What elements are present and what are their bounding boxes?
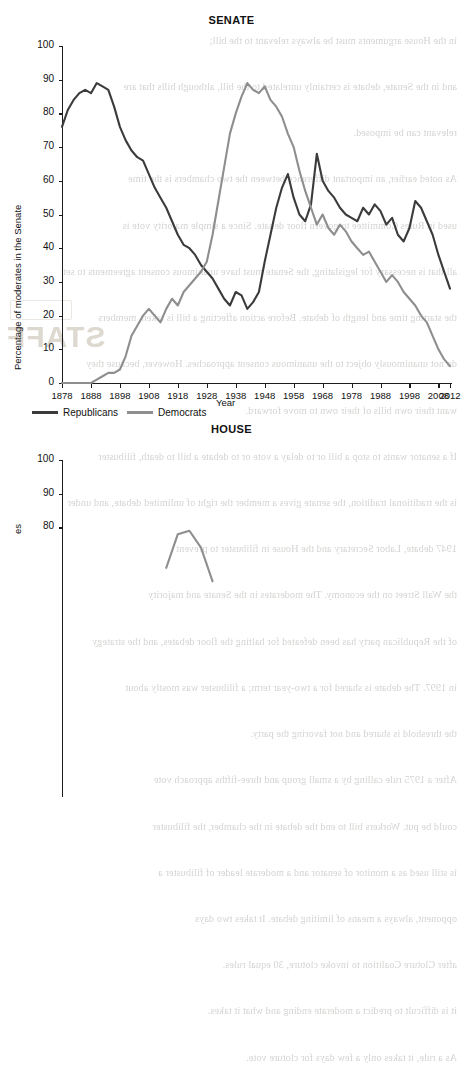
- bleed-line: is still used as a monitor of senator an…: [6, 865, 457, 880]
- bleed-line: After a 1975 rule calling by a small gro…: [6, 772, 457, 787]
- bleed-line: of the Republican party has been defeate…: [6, 634, 457, 649]
- bleed-line: it is difficult to predict a moderate en…: [6, 1003, 457, 1018]
- bleed-line: after Cloture Coalition to invoke clotur…: [6, 957, 457, 972]
- bleed-line: As a rule, it takes only a few days for …: [6, 1050, 457, 1065]
- bleed-line: the Wall Street on the economy. The mode…: [6, 587, 457, 602]
- series-line-democrats: [166, 531, 212, 582]
- bleed-line: opponent, always a means of limiting deb…: [6, 911, 457, 926]
- bleed-line: could be put. Workers bill to end the de…: [6, 819, 457, 834]
- bleed-line: in 1997. The debate is shared for a two-…: [6, 680, 457, 695]
- bleed-line: 1947 debate, Labor Secretary and the Hou…: [6, 541, 457, 556]
- bleed-line: the threshold is shared and not favoring…: [6, 726, 457, 741]
